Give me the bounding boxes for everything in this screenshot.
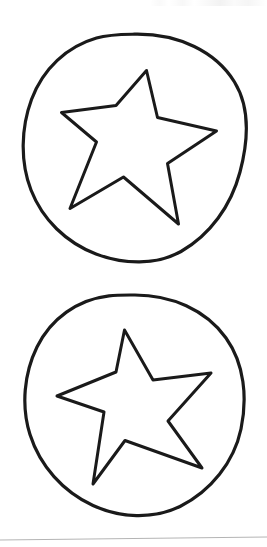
figure-two — [25, 295, 244, 516]
circle-outline-one — [23, 34, 246, 262]
star-outline-one — [62, 71, 217, 225]
figure-one — [23, 34, 246, 262]
worksheet-page — [0, 0, 267, 547]
star-outline-two — [57, 330, 211, 484]
footer-rule — [0, 537, 267, 540]
line-art-canvas — [0, 0, 267, 547]
circle-outline-two — [25, 295, 244, 516]
